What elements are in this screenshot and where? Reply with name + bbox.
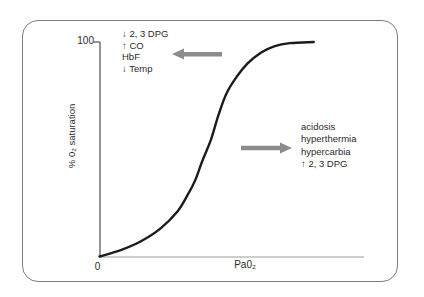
annotation-line: ↑ CO <box>122 40 168 52</box>
y-axis-label: % 0₂ saturation <box>66 104 77 168</box>
origin-label: 0 <box>90 261 105 272</box>
annotation-line: acidosis <box>301 121 356 133</box>
annotation-line: ↓ 2, 3 DPG <box>122 28 168 40</box>
annotation-line: hypercarbia <box>301 146 356 158</box>
annotation-line: ↓ Temp <box>122 63 168 75</box>
right-shift-annotation: acidosis hyperthermia hypercarbia ↑ 2, 3… <box>301 121 356 171</box>
left-shift-arrow-icon <box>172 49 222 60</box>
y-axis-tick-label: 100 <box>72 35 94 46</box>
left-shift-annotation: ↓ 2, 3 DPG ↑ CO HbF ↓ Temp <box>122 28 168 74</box>
x-axis-label: Pa0₂ <box>228 259 262 270</box>
annotation-line: HbF <box>122 51 168 63</box>
annotation-line: hyperthermia <box>301 133 356 145</box>
chart-canvas <box>0 0 424 297</box>
annotation-line: ↑ 2, 3 DPG <box>301 158 356 170</box>
right-shift-arrow-icon <box>241 143 292 154</box>
